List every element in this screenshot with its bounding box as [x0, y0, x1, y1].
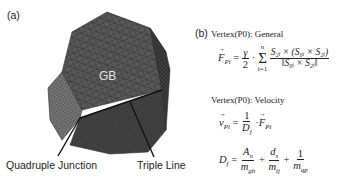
- summation: nΣi=1: [258, 44, 267, 73]
- velocity-equation: vPi = 1Df ·FPi: [219, 110, 271, 136]
- force-equation: FPi = γ2 · nΣi=1 S₂ᵢ × (S₀ᵢ × S₂ᵢ)‖S₀ᵢ ×…: [218, 44, 329, 73]
- quadruple-junction-label: Quadruple Junction: [6, 159, 97, 171]
- force-symbol: F: [218, 52, 224, 63]
- panel-b-label: (b): [195, 27, 208, 39]
- triple-line-label: Triple Line: [137, 159, 186, 171]
- heading-general: Vertex(P0): General: [211, 29, 283, 39]
- drag-equation: Df = Anmgb + dsmtj + 1mqp: [219, 146, 309, 176]
- gb-label: GB: [99, 69, 116, 83]
- heading-velocity: Vertex(P0): Velocity: [211, 95, 285, 105]
